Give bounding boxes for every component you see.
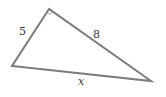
triangle-shape	[12, 9, 151, 81]
side-label-x: x	[78, 75, 85, 88]
side-label-5: 5	[19, 25, 26, 38]
triangle-diagram: 5 8 x	[0, 0, 166, 97]
side-label-8: 8	[93, 28, 100, 41]
